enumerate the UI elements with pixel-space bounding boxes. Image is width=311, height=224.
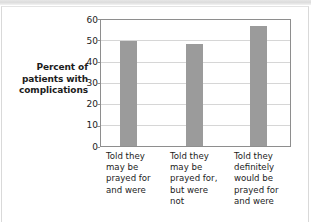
y-tick-label-20: 20 bbox=[76, 100, 98, 109]
y-tick-label-60: 60 bbox=[76, 16, 98, 25]
category-label-1: Told they may be prayed for and were bbox=[106, 151, 164, 196]
category-label-3-line-2: definitely bbox=[234, 162, 292, 173]
chart-figure: Percent of patients with complications 6… bbox=[0, 0, 311, 224]
y-tick-label-0: 0 bbox=[76, 143, 98, 152]
y-tick-label-30: 30 bbox=[76, 79, 98, 88]
y-tick-mark-0 bbox=[97, 147, 100, 148]
bar-told-may-be-prayed-for-and-were bbox=[120, 41, 137, 146]
category-label-3-line-3: would be bbox=[234, 173, 292, 184]
category-label-2-line-1: Told they bbox=[170, 151, 228, 162]
y-tick-label-40: 40 bbox=[76, 58, 98, 67]
category-label-1-line-2: may be bbox=[106, 162, 164, 173]
category-label-2-line-5: not bbox=[170, 196, 228, 207]
category-label-2-line-3: prayed for, bbox=[170, 173, 228, 184]
bar-told-definitely-would-be-prayed-for bbox=[250, 26, 267, 146]
category-label-3-line-1: Told they bbox=[234, 151, 292, 162]
category-label-1-line-3: prayed for bbox=[106, 173, 164, 184]
category-label-2-line-4: but were bbox=[170, 185, 228, 196]
category-label-3: Told they definitely would be prayed for… bbox=[234, 151, 292, 207]
top-decorative-band bbox=[0, 0, 311, 5]
category-label-3-line-4: prayed for bbox=[234, 185, 292, 196]
category-axis-labels: Told they may be prayed for and were Tol… bbox=[100, 151, 291, 221]
y-tick-label-50: 50 bbox=[76, 37, 98, 46]
category-label-1-line-4: and were bbox=[106, 185, 164, 196]
category-label-2: Told they may be prayed for, but were no… bbox=[170, 151, 228, 207]
category-label-3-line-5: and were bbox=[234, 196, 292, 207]
y-tick-label-10: 10 bbox=[76, 121, 98, 130]
plot-area bbox=[100, 19, 291, 147]
category-label-1-line-1: Told they bbox=[106, 151, 164, 162]
category-label-2-line-2: may be bbox=[170, 162, 228, 173]
bar-told-may-be-prayed-for-but-were-not bbox=[186, 44, 203, 146]
